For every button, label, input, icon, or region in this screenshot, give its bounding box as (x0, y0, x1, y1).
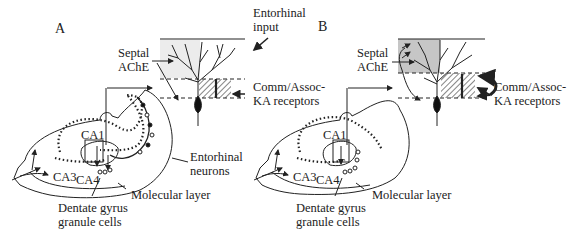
entorhinal-neurons-label-1: Entorhinal (190, 150, 243, 164)
entorhinal-input-label-2: input (253, 20, 279, 34)
dentate-label-b-1: Dentate gyrus (296, 201, 366, 215)
septal-label-a-1: Septal (118, 46, 149, 60)
ca4-label-a: CA4 (76, 173, 100, 187)
septal-label-b-2: AChE (357, 60, 388, 74)
dentate-label-a-1: Dentate gyrus (58, 201, 128, 215)
dentate-label-a-2: granule cells (58, 215, 122, 229)
molecular-layer-label-b: Molecular layer (372, 188, 451, 202)
comm-label-a-1: Comm/Assoc- (253, 80, 325, 94)
ca4-label-b: CA4 (316, 173, 340, 187)
panel-a-letter: A (55, 22, 65, 36)
septal-label-b-1: Septal (357, 46, 388, 60)
hippocampus-figure: A Entorhinal input Septal AChE Comm/Asso… (0, 0, 576, 239)
ca3-label-a: CA3 (53, 170, 77, 184)
entorhinal-input-label-1: Entorhinal (253, 6, 306, 20)
comm-label-b-1: Comm/Assoc- (494, 80, 566, 94)
ca1-label-a: CA1 (81, 128, 105, 142)
panel-b-letter: B (318, 20, 327, 34)
dentate-label-b-2: granule cells (296, 215, 360, 229)
ca1-label-b: CA1 (323, 128, 347, 142)
septal-label-a-2: AChE (118, 60, 149, 74)
entorhinal-neurons-label-2: neurons (190, 164, 230, 178)
ca3-label-b: CA3 (293, 170, 317, 184)
comm-label-b-2: KA receptors (494, 94, 560, 108)
molecular-layer-label-a: Molecular layer (131, 188, 210, 202)
comm-label-a-2: KA receptors (253, 94, 319, 108)
